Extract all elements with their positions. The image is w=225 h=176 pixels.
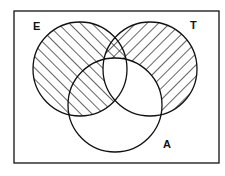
label-e: E [33, 20, 40, 32]
venn-diagram: E T A [0, 0, 225, 176]
label-a: A [163, 138, 171, 150]
label-t: T [190, 19, 197, 31]
